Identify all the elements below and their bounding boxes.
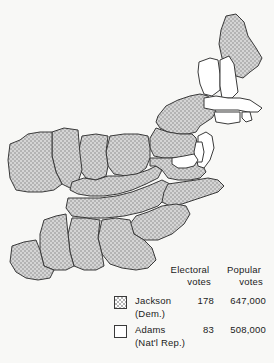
legend-adams-popular-votes: 508,000 [218,324,266,335]
legend-header-popular-line1: Popular [227,264,261,275]
map-legend: Electoral votes Popular votes Jackson (D… [0,262,274,363]
legend-header-electoral: Electoral votes [166,264,214,287]
legend-candidate-jackson-party: (Dem.) [135,308,205,321]
state-indiana [78,134,108,180]
electoral-map-figure: Electoral votes Popular votes Jackson (D… [0,0,274,363]
white-swatch-icon [114,325,127,338]
state-massachusetts [204,96,262,112]
state-vermont [198,58,220,96]
legend-row-adams: Adams (Nat'l Rep.) 83 508,000 [0,324,274,354]
state-rhode-island [242,112,252,122]
state-connecticut [214,112,240,124]
legend-header-popular: Popular votes [222,264,266,287]
legend-header-popular-line2: votes [222,276,266,288]
state-north-carolina [162,178,224,206]
legend-adams-electoral-votes: 83 [166,324,214,335]
stippled-gray-swatch-icon [114,296,127,309]
legend-candidate-adams-name: Adams [135,324,166,335]
legend-header-electoral-line1: Electoral [171,264,210,275]
legend-row-jackson: Jackson (Dem.) 178 647,000 [0,295,274,325]
legend-jackson-popular-votes: 647,000 [218,295,266,306]
legend-column-headers: Electoral votes Popular votes [0,262,274,292]
legend-candidate-adams-party: (Nat'l Rep.) [135,337,205,350]
legend-header-electoral-line2: votes [166,276,214,288]
state-ohio [106,134,150,176]
legend-jackson-electoral-votes: 178 [166,295,214,306]
